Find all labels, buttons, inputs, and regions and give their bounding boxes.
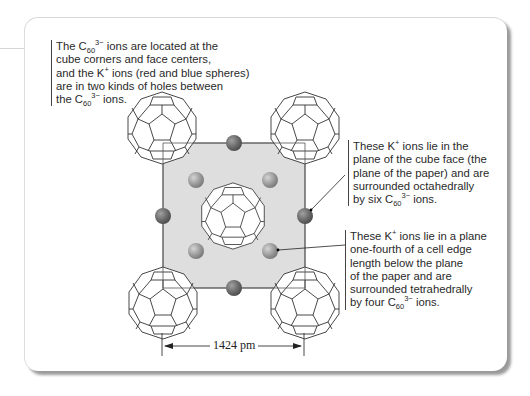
callout-line: one-fourth of a cell edge <box>350 243 487 256</box>
callout-line: of the paper and are <box>350 270 487 283</box>
k-ion-octahedral-left <box>155 208 171 224</box>
k-ion-tetrahedral <box>262 172 278 188</box>
callout-line: These K+ ions lie in the <box>353 140 489 153</box>
callout-line: plane of the cube face (the <box>353 153 489 166</box>
callout-octahedral-holes: These K+ ions lie in the plane of the cu… <box>348 140 489 206</box>
leader-line-octahedral <box>311 175 345 210</box>
callout-line: surrounded tetrahedrally <box>350 283 487 296</box>
caption-c60-ion-positions: The C603− ions are located at the cube c… <box>51 40 249 106</box>
callout-line: by four C603− ions. <box>350 296 487 309</box>
k-ion-octahedral-bottom <box>226 280 242 296</box>
callout-line: surrounded octahedrally <box>353 180 489 193</box>
k-ion-tetrahedral <box>188 172 204 188</box>
c60-face-center <box>202 183 265 249</box>
callout-line: by six C603− ions. <box>353 193 489 206</box>
caption-line: are in two kinds of holes between <box>56 80 249 93</box>
dimension-label: 1424 pm <box>210 338 258 353</box>
callout-line: length below the plane <box>350 257 487 270</box>
callout-line: plane of the paper) and are <box>353 167 489 180</box>
k-ion-octahedral-top <box>226 135 242 151</box>
k-ion-tetrahedral <box>262 243 278 259</box>
caption-line: and the K+ ions (red and blue spheres) <box>56 67 249 80</box>
caption-line: cube corners and face centers, <box>56 53 249 66</box>
caption-line: the C603− ions. <box>56 93 249 106</box>
caption-line: The C603− ions are located at the <box>56 40 249 53</box>
k-ion-tetrahedral <box>188 243 204 259</box>
callout-tetrahedral-holes: These K+ ions lie in a plane one-fourth … <box>345 230 487 310</box>
callout-line: These K+ ions lie in a plane <box>350 230 487 243</box>
